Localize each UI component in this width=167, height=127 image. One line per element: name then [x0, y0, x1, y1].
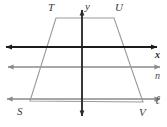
line-l-label: ℓ — [155, 95, 160, 105]
vertex-label-T: T — [48, 2, 54, 13]
line-n-label: n — [155, 71, 160, 81]
trapezoid-STUV — [30, 18, 143, 102]
y-axis-label: y — [85, 1, 90, 12]
vertex-label-S: S — [17, 106, 23, 117]
geometry-figure: T U S V y x n ℓ — [0, 0, 167, 127]
vertex-label-V: V — [139, 107, 146, 118]
vertex-label-U: U — [115, 2, 123, 13]
x-axis-label: x — [155, 50, 160, 60]
